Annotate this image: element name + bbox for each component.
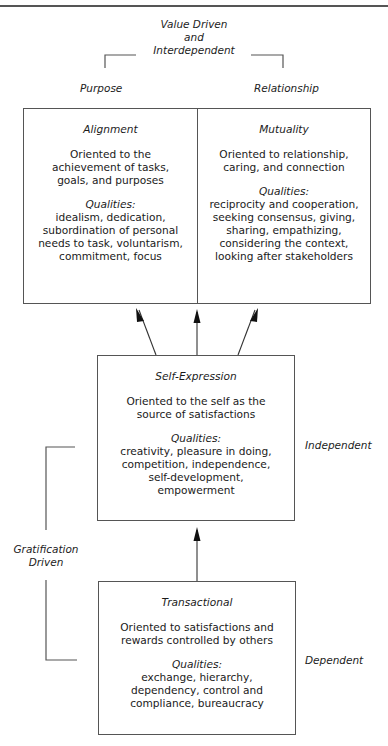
mutuality-qualities-label: Qualities: xyxy=(202,185,366,198)
alignment-title: Alignment xyxy=(30,123,191,136)
transactional-qualities: exchange, hierarchy, dependency, control… xyxy=(105,671,289,710)
self-expression-qualities-label: Qualities: xyxy=(104,432,288,445)
transactional-qualities-label: Qualities: xyxy=(105,658,289,671)
independent-label: Independent xyxy=(305,439,372,451)
dependent-label: Dependent xyxy=(305,654,363,666)
mutuality-description: Oriented to relationship, caring, and co… xyxy=(202,148,366,174)
mutuality-cell: Mutuality Oriented to relationship, cari… xyxy=(198,109,370,303)
mutuality-title: Mutuality xyxy=(202,123,366,136)
self-expression-title: Self-Expression xyxy=(104,370,288,383)
alignment-qualities: idealism, dedication, subordination of p… xyxy=(30,211,191,263)
self-expression-box: Self-Expression Oriented to the self as … xyxy=(97,355,295,521)
alignment-cell: Alignment Oriented to the achievement of… xyxy=(24,109,197,303)
transactional-box: Transactional Oriented to satisfactions … xyxy=(98,581,296,735)
gratification-line-1: Gratification xyxy=(10,543,82,556)
value-driven-box: Alignment Oriented to the achievement of… xyxy=(23,108,371,304)
alignment-description: Oriented to the achievement of tasks, go… xyxy=(30,148,191,187)
alignment-qualities-label: Qualities: xyxy=(30,198,191,211)
mutuality-qualities: reciprocity and cooperation, seeking con… xyxy=(202,198,366,263)
self-expression-description: Oriented to the self as the source of sa… xyxy=(104,395,288,421)
self-expression-qualities: creativity, pleasure in doing, competiti… xyxy=(104,445,288,497)
transactional-title: Transactional xyxy=(105,596,289,609)
self-expression-cell: Self-Expression Oriented to the self as … xyxy=(98,356,294,520)
gratification-driven-label: Gratification Driven xyxy=(10,543,82,569)
gratification-line-2: Driven xyxy=(10,556,82,569)
transactional-description: Oriented to satisfactions and rewards co… xyxy=(105,621,289,647)
transactional-cell: Transactional Oriented to satisfactions … xyxy=(99,582,295,734)
